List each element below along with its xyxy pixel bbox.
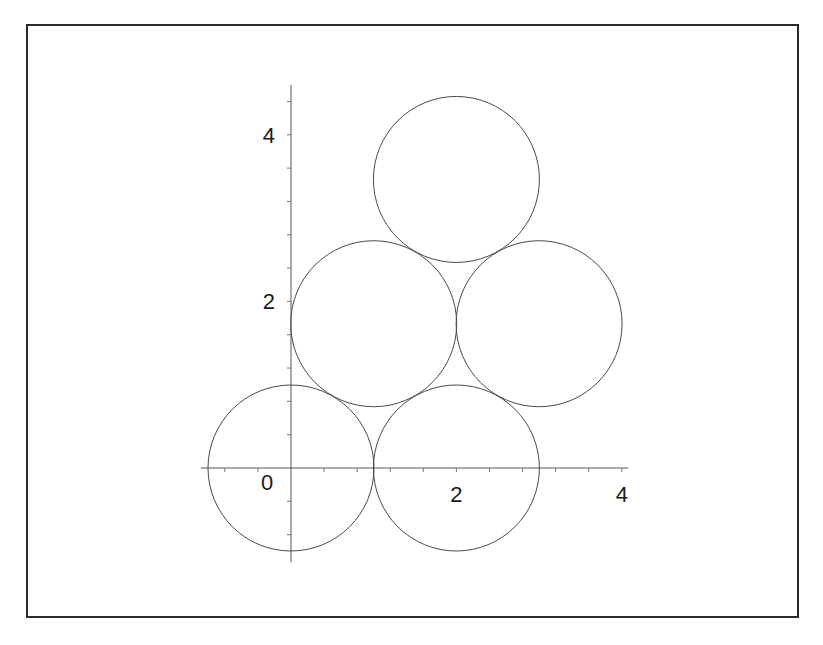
x-tick-label: 0: [261, 470, 273, 495]
axis-ticks: [225, 101, 622, 534]
x-tick-label: 4: [616, 482, 628, 507]
tick-labels: 02424: [261, 123, 628, 507]
x-tick-label: 2: [450, 482, 462, 507]
circle-4: [456, 241, 622, 407]
y-tick-label: 2: [263, 289, 275, 314]
circle-5: [373, 96, 539, 262]
y-tick-label: 4: [263, 123, 275, 148]
plot-area: 02424: [0, 0, 823, 645]
circle-3: [291, 241, 457, 407]
